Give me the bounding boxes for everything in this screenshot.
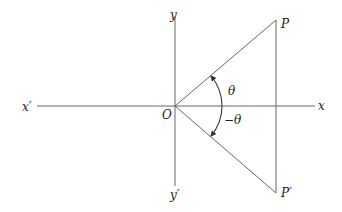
y-axis-label: y	[169, 8, 177, 22]
point-p-prime-label: P′	[280, 186, 292, 200]
y-prime-axis-label: y′	[169, 188, 180, 202]
angle-reflection-diagram: x x′ y y′ O P P′ θ −θ	[0, 0, 342, 212]
origin-label: O	[162, 108, 172, 122]
x-axis-label: x	[318, 99, 325, 113]
angle-arc-negative	[211, 106, 222, 136]
ray-op	[175, 20, 276, 106]
x-prime-axis-label: x′	[22, 100, 32, 114]
point-p-label: P	[280, 17, 290, 31]
angle-minus-theta-label: −θ	[224, 113, 242, 127]
angle-arc-positive	[211, 76, 222, 106]
angle-theta-label: θ	[228, 84, 236, 98]
